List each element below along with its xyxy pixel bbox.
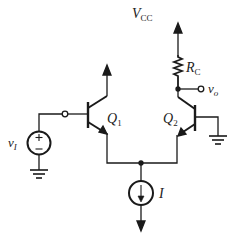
circuit-diagram: VCC RC vo vI Q1 Q2 I bbox=[0, 0, 238, 241]
output-terminal-icon bbox=[198, 86, 204, 92]
collector-node-dot bbox=[176, 87, 180, 91]
ground-q2-icon bbox=[209, 136, 227, 144]
q2-label: Q2 bbox=[163, 111, 178, 128]
vo-label: vo bbox=[208, 81, 219, 98]
current-label: I bbox=[158, 186, 165, 201]
resistor-rc-icon bbox=[174, 55, 182, 89]
vee-arrow-icon bbox=[137, 221, 145, 231]
q1-transistor-icon bbox=[88, 96, 107, 134]
q2-transistor-icon bbox=[178, 105, 195, 136]
q1-label: Q1 bbox=[107, 111, 122, 128]
vcc-supply-arrow-icon bbox=[174, 23, 182, 55]
q1-collector-arrow-icon bbox=[103, 65, 111, 75]
voltage-source-vi-icon bbox=[28, 132, 51, 155]
vcc-label: VCC bbox=[132, 6, 153, 23]
input-terminal-icon bbox=[62, 111, 68, 117]
rc-label: RC bbox=[185, 60, 201, 77]
current-source-icon bbox=[129, 181, 153, 205]
ground-vi-icon bbox=[30, 170, 48, 178]
vi-label: vI bbox=[8, 135, 18, 152]
